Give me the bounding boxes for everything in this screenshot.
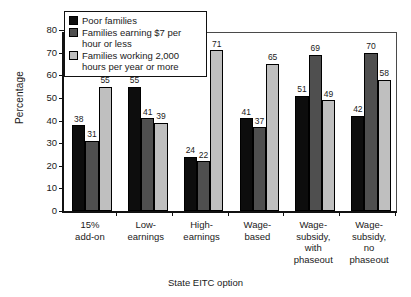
bar — [85, 141, 98, 211]
bar — [351, 116, 364, 211]
bar-value-label: 71 — [207, 39, 226, 49]
bar — [378, 80, 391, 211]
y-tick-label: 20 — [46, 160, 57, 171]
bar — [210, 50, 223, 211]
bar — [266, 64, 279, 211]
bar — [128, 87, 141, 211]
y-tick-label: 0 — [52, 205, 57, 216]
x-tick-label: Wage- subsidy, no phaseout — [333, 219, 405, 265]
y-tick-label: 10 — [46, 182, 57, 193]
bar-value-label: 58 — [375, 68, 394, 78]
bar — [197, 161, 210, 211]
y-tick-label: 60 — [46, 69, 57, 80]
legend-swatch-low-wage-families — [69, 28, 78, 37]
bar — [322, 100, 335, 211]
x-group-separator-tick — [172, 211, 173, 216]
legend-item: Families working 2,000 hours per year or… — [69, 50, 202, 72]
y-tick-label: 50 — [46, 92, 57, 103]
bar-value-label: 65 — [263, 52, 282, 62]
legend-label: Families earning $7 per hour or less — [82, 27, 202, 49]
bar-chart: Percentage 01020304050607080 38315555413… — [0, 0, 411, 297]
y-tick-label: 80 — [46, 24, 57, 35]
y-axis-title: Percentage — [14, 53, 25, 143]
bar — [154, 123, 167, 211]
y-tick-label: 40 — [46, 115, 57, 126]
bar — [309, 55, 322, 211]
x-group-separator-tick — [395, 211, 396, 216]
bar-value-label: 39 — [151, 111, 170, 121]
x-group-separator-tick — [283, 211, 284, 216]
x-group-separator-tick — [116, 211, 117, 216]
legend-swatch-poor-families — [69, 16, 78, 25]
legend-item: Families earning $7 per hour or less — [69, 27, 202, 49]
bar-value-label: 49 — [319, 89, 338, 99]
bar — [99, 87, 112, 211]
y-tick-label: 70 — [46, 47, 57, 58]
x-axis-title: State EITC option — [0, 277, 411, 288]
legend-label: Poor families — [82, 15, 137, 26]
bar-value-label: 69 — [306, 43, 325, 53]
bar — [295, 96, 308, 211]
bar-value-label: 38 — [69, 114, 88, 124]
bar — [253, 127, 266, 211]
legend-item: Poor families — [69, 15, 202, 26]
bar — [184, 157, 197, 211]
legend-label: Families working 2,000 hours per year or… — [82, 50, 202, 72]
legend-swatch-full-time-families — [69, 51, 78, 60]
bar — [240, 118, 253, 211]
y-tick-label: 30 — [46, 137, 57, 148]
x-group-separator-tick — [228, 211, 229, 216]
bar-value-label: 70 — [361, 41, 380, 51]
x-group-separator-tick — [339, 211, 340, 216]
chart-legend: Poor families Families earning $7 per ho… — [64, 11, 207, 77]
bar — [141, 118, 154, 211]
y-tick-mark — [59, 211, 64, 212]
